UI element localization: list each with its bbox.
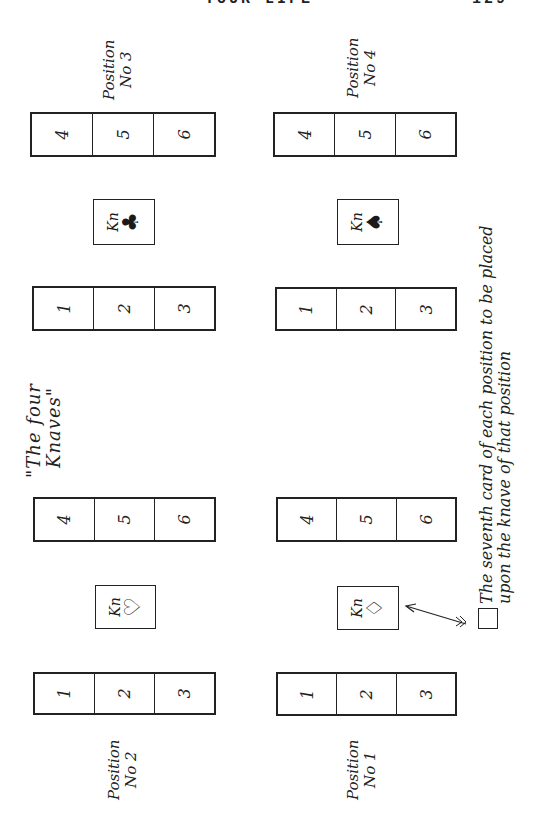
card-slot-number: 6 (416, 514, 435, 524)
knave-of-hearts-card: Kn ♡ (95, 585, 156, 629)
card-slot: 4 (278, 499, 337, 540)
card-slot: 6 (154, 114, 214, 155)
page-number: 129 (472, 0, 508, 5)
card-slot: 5 (335, 114, 395, 155)
card-slot-number: 3 (416, 304, 435, 314)
position-1-upper-strip: 4 5 6 (276, 497, 457, 542)
card-slot: 3 (397, 674, 455, 714)
position-label-line1: Position (345, 739, 362, 800)
position-4-upper-strip: 4 5 6 (273, 112, 457, 157)
diamond-icon: ♢ (364, 598, 386, 618)
card-slot: 6 (396, 114, 455, 155)
card-slot-number: 1 (55, 688, 74, 698)
card-slot-number: 3 (175, 303, 194, 313)
card-slot: 1 (277, 289, 337, 329)
card-slot-number: 3 (416, 689, 435, 699)
position-2-lower-strip: 1 2 3 (33, 672, 216, 715)
position-label-line2: No 2 (123, 739, 140, 800)
card-slot: 4 (35, 499, 95, 540)
card-slot-number: 4 (295, 129, 314, 139)
heart-icon: ♡ (121, 597, 143, 617)
club-icon: ♣ (120, 212, 142, 232)
position-4-lower-strip: 1 2 3 (275, 287, 457, 331)
legend-card-square (478, 608, 498, 629)
card-slot: 1 (35, 674, 95, 713)
card-slot: 1 (278, 674, 337, 714)
card-slot-number: 4 (53, 129, 72, 139)
position-3-lower-strip: 1 2 3 (32, 286, 216, 331)
card-slot-number: 3 (175, 688, 194, 698)
legend-note-line1: The seventh card of each position to be … (478, 225, 496, 604)
card-slot-number: 1 (54, 303, 73, 313)
card-slot: 4 (32, 114, 93, 155)
position-label-line2: No 3 (118, 39, 135, 100)
card-slot: 2 (337, 289, 397, 329)
diagram-title: "The four Knaves" (24, 383, 64, 478)
card-slot: 2 (95, 674, 155, 713)
card-slot-number: 6 (175, 129, 194, 139)
legend-note: The seventh card of each position to be … (478, 225, 514, 604)
position-label-line1: Position (101, 39, 118, 100)
position-label-line1: Position (345, 37, 362, 98)
position-label-line2: No 1 (362, 739, 379, 800)
knave-of-spades-card: Kn ♠ (337, 199, 399, 245)
card-slot: 3 (155, 288, 214, 329)
legend-note-line2: upon the knave of that position (496, 225, 514, 604)
card-slot: 2 (337, 674, 396, 714)
running-head: YOUR LIFE (205, 0, 313, 5)
position-label-line1: Position (106, 739, 123, 800)
card-slot: 5 (95, 499, 155, 540)
card-slot-number: 5 (355, 129, 374, 139)
card-slot: 5 (93, 114, 154, 155)
position-label-line2: No 4 (362, 37, 379, 98)
card-slot-number: 1 (297, 304, 316, 314)
position-1-label: Position No 1 (345, 739, 379, 800)
card-slot: 2 (94, 288, 154, 329)
card-slot-number: 6 (175, 514, 194, 524)
card-slot-number: 4 (55, 514, 74, 524)
card-slot: 6 (155, 499, 214, 540)
card-slot: 3 (155, 674, 214, 713)
position-2-upper-strip: 4 5 6 (33, 497, 216, 542)
diagram-title-line1: "The four (24, 383, 44, 478)
position-3-upper-strip: 4 5 6 (30, 112, 216, 157)
diagram-title-line2: Knaves" (44, 383, 64, 478)
spade-icon: ♠ (364, 212, 386, 232)
card-slot: 1 (34, 288, 94, 329)
position-2-label: Position No 2 (106, 739, 140, 800)
card-slot-number: 2 (357, 689, 376, 699)
card-slot-number: 2 (114, 303, 133, 313)
position-1-lower-strip: 1 2 3 (276, 672, 457, 716)
card-slot: 3 (396, 289, 455, 329)
card-slot-number: 6 (416, 129, 435, 139)
card-slot: 4 (275, 114, 335, 155)
card-slot-number: 2 (357, 304, 376, 314)
card-slot: 5 (337, 499, 396, 540)
position-4-label: Position No 4 (345, 37, 379, 98)
arrow-icon (404, 600, 474, 630)
knave-of-clubs-card: Kn ♣ (93, 199, 155, 245)
position-3-label: Position No 3 (101, 39, 135, 100)
card-slot-number: 5 (115, 514, 134, 524)
card-slot-number: 5 (114, 129, 133, 139)
card-slot-number: 1 (298, 689, 317, 699)
knave-of-diamonds-card: Kn ♢ (337, 586, 399, 630)
card-slot: 6 (397, 499, 455, 540)
card-slot-number: 5 (357, 514, 376, 524)
card-slot-number: 4 (298, 514, 317, 524)
card-slot-number: 2 (115, 688, 134, 698)
